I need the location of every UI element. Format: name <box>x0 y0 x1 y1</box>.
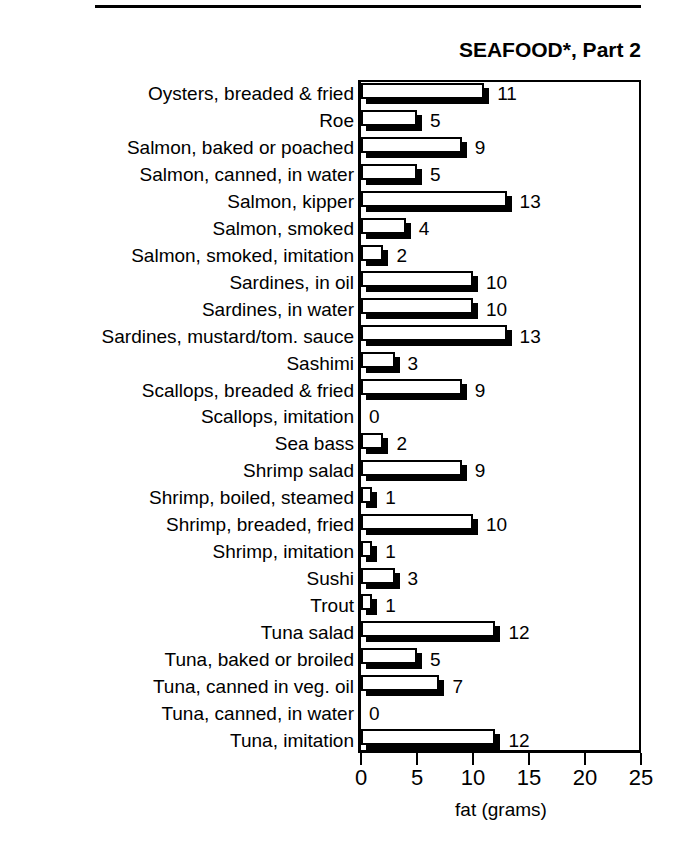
category-label: Salmon, kipper <box>227 192 354 211</box>
bar-row: Shrimp, imitation1 <box>0 538 680 565</box>
bar-rows-container: Oysters, breaded & fried11Roe5Salmon, ba… <box>0 80 680 753</box>
x-axis-tick <box>584 753 586 765</box>
bar-face <box>361 271 473 287</box>
category-label: Salmon, baked or poached <box>127 138 354 157</box>
bar <box>361 702 363 724</box>
bar <box>361 433 389 455</box>
category-label: Tuna, imitation <box>230 730 354 749</box>
bar-value-label: 12 <box>508 622 529 641</box>
bar-row: Trout1 <box>0 591 680 618</box>
bar-face <box>361 218 406 234</box>
bar-face <box>361 541 372 557</box>
bar-face <box>361 460 462 476</box>
category-label: Sushi <box>306 569 354 588</box>
bar-face <box>361 325 507 341</box>
bar-row: Sardines, in water10 <box>0 295 680 322</box>
bar <box>361 675 445 697</box>
bar-face <box>361 729 495 745</box>
bar-value-label: 3 <box>408 353 419 372</box>
x-axis-ticks <box>0 753 680 765</box>
category-label: Oysters, breaded & fried <box>148 84 354 103</box>
bar-value-label: 9 <box>475 138 486 157</box>
bar-row: Salmon, baked or poached9 <box>0 134 680 161</box>
bar <box>361 406 363 428</box>
bar-face <box>361 83 484 99</box>
top-divider-rule <box>95 5 641 8</box>
bar-face <box>361 245 383 261</box>
category-label: Scallops, breaded & fried <box>142 380 354 399</box>
category-label: Sardines, in water <box>202 299 354 318</box>
bar-value-label: 2 <box>396 245 407 264</box>
bar-row: Oysters, breaded & fried11 <box>0 80 680 107</box>
bar <box>361 541 378 563</box>
x-axis-tick-label: 5 <box>411 767 423 789</box>
category-label: Shrimp, breaded, fried <box>166 515 354 534</box>
bar <box>361 164 423 186</box>
bar <box>361 298 479 320</box>
bar-face <box>361 675 439 691</box>
bar-value-label: 11 <box>497 84 517 103</box>
bar-face <box>361 514 473 530</box>
bar-value-label: 5 <box>430 649 441 668</box>
bar <box>361 218 412 240</box>
category-label: Scallops, imitation <box>201 407 354 426</box>
category-label: Salmon, smoked, imitation <box>131 245 354 264</box>
bar-face <box>361 352 395 368</box>
bar-row: Shrimp, breaded, fried10 <box>0 511 680 538</box>
bar <box>361 514 479 536</box>
bar-value-label: 13 <box>520 192 541 211</box>
category-label: Sea bass <box>275 434 354 453</box>
bar-face <box>361 621 495 637</box>
x-axis-tick-label: 20 <box>573 767 597 789</box>
bar-row: Sushi3 <box>0 565 680 592</box>
bar-row: Tuna, canned in veg. oil7 <box>0 672 680 699</box>
bar-row: Tuna salad12 <box>0 618 680 645</box>
bar-value-label: 10 <box>486 299 507 318</box>
category-label: Tuna, baked or broiled <box>165 649 354 668</box>
x-axis-tick-label: 15 <box>517 767 541 789</box>
category-label: Shrimp, boiled, steamed <box>149 488 354 507</box>
x-axis-tick-label: 25 <box>629 767 653 789</box>
bar-face <box>361 137 462 153</box>
bar-row: Scallops, imitation0 <box>0 403 680 430</box>
bar-row: Salmon, canned, in water5 <box>0 161 680 188</box>
bar-face <box>361 298 473 314</box>
bar-row: Sardines, mustard/tom. sauce13 <box>0 322 680 349</box>
x-axis-title: fat (grams) <box>361 800 641 819</box>
category-label: Roe <box>319 111 354 130</box>
bar-row: Sashimi3 <box>0 349 680 376</box>
bar-row: Roe5 <box>0 107 680 134</box>
bar-value-label: 5 <box>430 165 441 184</box>
category-label: Sardines, in oil <box>229 272 354 291</box>
x-axis-tick-labels: 0510152025 <box>0 767 680 793</box>
bar-face <box>361 568 395 584</box>
bar <box>361 487 378 509</box>
category-label: Tuna salad <box>261 622 354 641</box>
bar-value-label: 0 <box>369 703 380 722</box>
x-axis-tick <box>416 753 418 765</box>
bar <box>361 621 501 643</box>
bar <box>361 568 401 590</box>
bar-row: Sardines, in oil10 <box>0 268 680 295</box>
category-label: Salmon, canned, in water <box>140 165 354 184</box>
bar-row: Sea bass2 <box>0 430 680 457</box>
bar-face <box>361 594 372 610</box>
bar <box>361 729 501 751</box>
category-label: Tuna, canned in veg. oil <box>153 676 354 695</box>
bar-face <box>361 379 462 395</box>
category-label: Sashimi <box>286 353 354 372</box>
bar <box>361 245 389 267</box>
bar-value-label: 9 <box>475 380 486 399</box>
bar-row: Shrimp, boiled, steamed1 <box>0 484 680 511</box>
bar-face <box>361 433 383 449</box>
bar-row: Salmon, kipper13 <box>0 188 680 215</box>
bar <box>361 352 401 374</box>
bar-value-label: 1 <box>385 542 396 561</box>
bar <box>361 594 378 616</box>
bar-row: Shrimp salad9 <box>0 457 680 484</box>
category-label: Sardines, mustard/tom. sauce <box>102 326 354 345</box>
category-label: Shrimp, imitation <box>213 542 355 561</box>
bar <box>361 379 468 401</box>
category-label: Salmon, smoked <box>212 219 354 238</box>
category-label: Tuna, canned, in water <box>161 703 354 722</box>
